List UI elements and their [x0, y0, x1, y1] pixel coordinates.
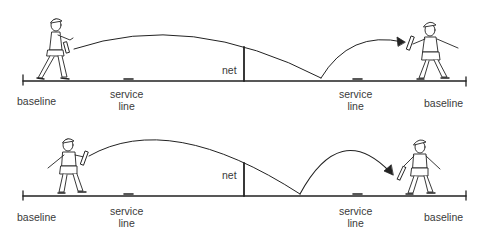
top-baseline-right-label: baseline [424, 97, 463, 109]
bottom-baseline-right-label: baseline [424, 211, 463, 223]
bottom-right-player-figure [397, 140, 440, 194]
top-baseline-left-label: baseline [17, 95, 56, 107]
top-ball-trajectory-1 [74, 35, 321, 78]
bottom-arrowhead-icon [384, 165, 393, 175]
top-ball-trajectory-2 [321, 40, 403, 78]
bottom-service-line-right-label: service line [339, 205, 372, 229]
bottom-baseline-left-label: baseline [17, 211, 56, 223]
bottom-ball-trajectory-2 [300, 151, 390, 194]
bottom-ball-trajectory-1 [89, 140, 300, 194]
bottom-service-line-left-label: service line [110, 205, 143, 229]
bottom-court [23, 139, 466, 200]
top-court [23, 19, 466, 86]
top-arrowhead-icon [397, 37, 405, 46]
bottom-left-player-figure [48, 139, 88, 193]
court-diagram-canvas [0, 0, 492, 249]
top-service-line-left-label: service line [110, 88, 143, 112]
top-net-label: net [222, 64, 237, 76]
top-right-player-figure [407, 22, 458, 79]
top-service-line-right-label: service line [339, 88, 372, 112]
bottom-net-label: net [222, 169, 237, 181]
top-left-player-figure [37, 19, 73, 79]
